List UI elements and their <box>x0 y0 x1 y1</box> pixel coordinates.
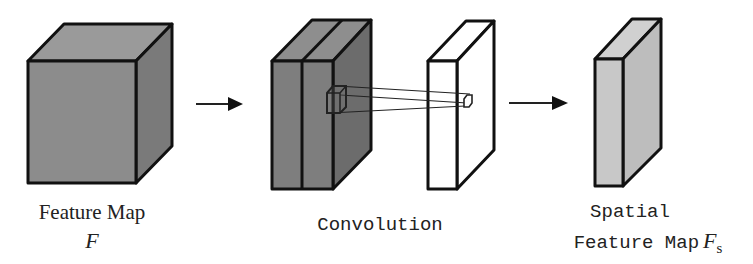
arrow-to-spatial-map <box>509 96 568 110</box>
spatial-feature-map-label-line1: Spatial <box>560 201 700 223</box>
feature-map-symbol: F <box>22 228 162 254</box>
spatial-feature-map-slab <box>595 19 661 186</box>
convolution-output-slab <box>428 21 494 189</box>
spatial-feature-map-subscript: s <box>717 240 723 256</box>
spatial-feature-map-symbol: F <box>703 228 716 253</box>
convolution-label: Convolution <box>305 214 455 236</box>
feature-map-cube <box>28 24 172 183</box>
convolution-input-block <box>272 20 371 189</box>
spatial-feature-map-text: Feature Map <box>574 232 699 254</box>
arrow-to-convolution <box>196 97 243 111</box>
feature-map-label: Feature Map <box>22 200 162 225</box>
spatial-feature-map-label-line2: Feature Map Fs <box>548 228 748 254</box>
